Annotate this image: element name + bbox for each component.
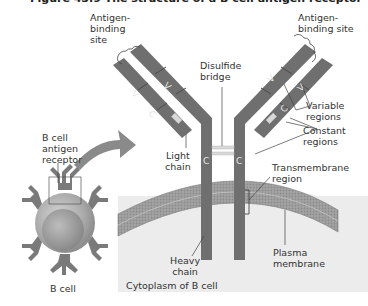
label-plasma-membrane: Plasma membrane bbox=[273, 247, 325, 269]
c-label-left-heavy: C bbox=[203, 156, 209, 166]
label-antigen-binding-site-left: Antigen- binding site bbox=[90, 12, 130, 45]
c-label-left-light: C bbox=[147, 108, 159, 120]
zoom-arrow bbox=[74, 130, 136, 170]
b-cell bbox=[22, 163, 108, 275]
c-label-right-heavy: C bbox=[236, 156, 242, 166]
label-heavy-chain: Heavy chain bbox=[170, 255, 200, 277]
b-cell-nucleus bbox=[42, 209, 84, 251]
label-transmembrane-region: Transmembrane region bbox=[272, 162, 349, 184]
label-antigen-binding-site-right: Antigen- binding site bbox=[298, 12, 354, 34]
label-b-cell: B cell bbox=[50, 283, 76, 294]
label-disulfide-bridge: Disulfide bridge bbox=[200, 60, 241, 82]
label-constant-regions: Constant regions bbox=[303, 125, 346, 147]
label-cytoplasm: Cytoplasm of B cell bbox=[126, 280, 218, 291]
b-cell-receptor-figure: Figure 43.9 The structure of a B cell an… bbox=[0, 0, 368, 306]
v-label-left-light: V bbox=[130, 88, 142, 100]
label-light-chain: Light chain bbox=[165, 150, 191, 172]
label-b-cell-antigen-receptor: B cell antigen receptor bbox=[42, 132, 82, 165]
label-variable-regions: Variable regions bbox=[306, 100, 344, 122]
